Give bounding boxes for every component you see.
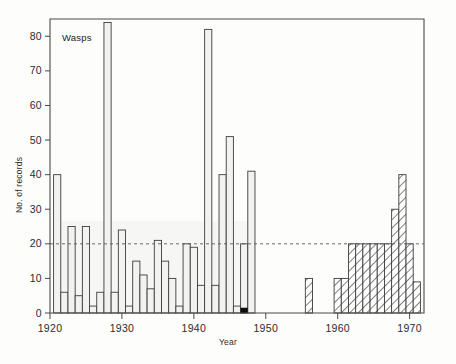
bar-1928: [104, 22, 111, 313]
bar-1945: [226, 137, 233, 313]
bar-1968: [392, 209, 399, 313]
y-tick-label-70: 70: [30, 64, 42, 76]
bar-1943: [212, 285, 219, 313]
bar-1929: [111, 292, 118, 313]
chart-figure: 0102030405060708019201930194019501960197…: [0, 0, 456, 364]
y-tick-label-0: 0: [36, 307, 42, 319]
bar-1956: [305, 278, 312, 313]
bar-1946: [233, 306, 240, 313]
baseline-marker: [241, 308, 247, 313]
x-tick-label-1940: 1940: [182, 322, 207, 334]
plot-area: [50, 22, 424, 313]
bar-1948: [248, 171, 255, 313]
x-tick-label-1930: 1930: [110, 322, 135, 334]
x-tick-label-1960: 1960: [325, 322, 350, 334]
y-tick-label-60: 60: [30, 99, 42, 111]
bar-1927: [97, 292, 104, 313]
bar-1966: [377, 244, 384, 313]
bar-1925: [82, 227, 89, 313]
x-tick-label-1970: 1970: [397, 322, 422, 334]
bar-1963: [356, 244, 363, 313]
x-tick-label-1920: 1920: [38, 322, 63, 334]
bar-1960: [334, 278, 341, 313]
y-tick-label-10: 10: [30, 272, 42, 284]
wasps-histogram: 0102030405060708019201930194019501960197…: [0, 0, 456, 364]
bar-1922: [61, 292, 68, 313]
bar-1961: [341, 278, 348, 313]
bar-1964: [363, 244, 370, 313]
y-tick-label-80: 80: [30, 30, 42, 42]
bar-1965: [370, 244, 377, 313]
bar-1923: [68, 227, 75, 313]
y-tick-label-20: 20: [30, 237, 42, 249]
bar-1936: [161, 261, 168, 313]
bar-1930: [118, 230, 125, 313]
bar-1926: [90, 306, 97, 313]
x-tick-label-1950: 1950: [253, 322, 278, 334]
panel-title: Wasps: [62, 32, 92, 43]
bar-1970: [406, 244, 413, 313]
y-tick-label-50: 50: [30, 134, 42, 146]
bar-1947: [241, 244, 248, 313]
bar-1962: [348, 244, 355, 313]
bar-1931: [126, 306, 133, 313]
x-axis-title: Year: [219, 337, 237, 347]
bar-1942: [205, 29, 212, 313]
bar-1933: [140, 275, 147, 313]
bar-1934: [147, 289, 154, 313]
bar-1932: [133, 261, 140, 313]
bar-1971: [413, 282, 420, 313]
bar-1935: [154, 240, 161, 313]
y-tick-label-30: 30: [30, 203, 42, 215]
bar-1939: [183, 244, 190, 313]
y-axis-title: No. of records: [14, 157, 24, 213]
y-tick-label-40: 40: [30, 168, 42, 180]
bar-1940: [190, 247, 197, 313]
bar-1967: [384, 244, 391, 313]
bar-1938: [176, 306, 183, 313]
bar-1924: [75, 296, 82, 313]
bar-1937: [169, 278, 176, 313]
bar-1941: [197, 285, 204, 313]
